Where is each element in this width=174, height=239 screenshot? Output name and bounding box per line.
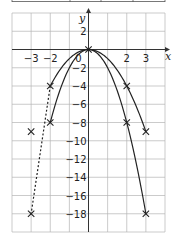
y-tick-label: −18 <box>65 209 86 220</box>
tick-labels: −3−20232−2−4−6−8−10−12−14−16−18 <box>24 26 149 220</box>
axes <box>12 8 170 232</box>
y-tick-label: −8 <box>72 118 87 129</box>
y-tick-label: −6 <box>72 99 87 110</box>
y-tick-label: 2 <box>80 26 86 37</box>
y-tick-label: −14 <box>65 172 86 183</box>
y-tick-label: −4 <box>72 81 87 92</box>
y-axis-label: y <box>78 12 86 25</box>
y-tick-label: −2 <box>72 63 87 74</box>
y-tick-label: −10 <box>65 136 86 147</box>
x-tick-label: 3 <box>143 53 149 64</box>
x-tick-label: −3 <box>24 53 39 64</box>
y-tick-label: −16 <box>65 191 86 202</box>
x-tick-label: 2 <box>124 53 130 64</box>
x-tick-label: −2 <box>43 53 58 64</box>
x-axis-label: x <box>165 50 172 63</box>
parabola-graph: −3−20232−2−4−6−8−10−12−14−16−18 x y <box>0 0 174 239</box>
table-fragment <box>12 0 165 2</box>
curve <box>50 50 146 132</box>
curve <box>50 50 146 214</box>
curve <box>31 86 50 214</box>
y-tick-label: −12 <box>65 154 86 165</box>
